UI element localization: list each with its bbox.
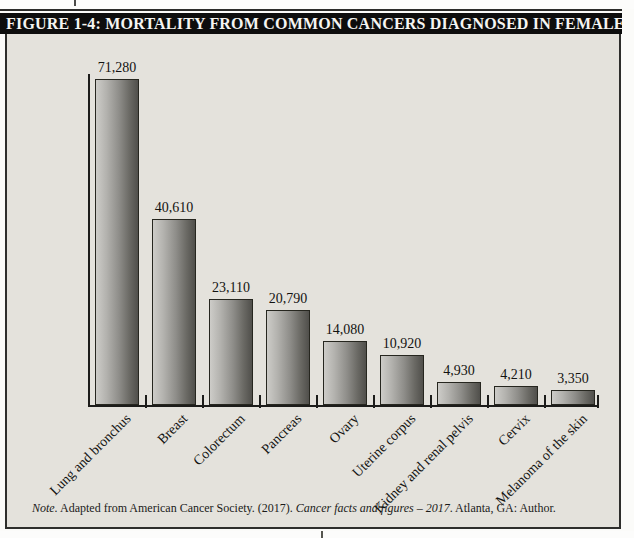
bar-category-label: Pancreas <box>259 411 306 458</box>
bar <box>95 79 139 405</box>
axis-tick <box>597 395 599 408</box>
bar <box>380 355 424 405</box>
bar <box>152 219 196 405</box>
bar-category-label: Lung and bronchus <box>47 411 135 499</box>
axis-tick <box>202 395 204 408</box>
figure-title: FIGURE 1-4: MORTALITY FROM COMMON CANCER… <box>6 15 634 33</box>
bar <box>494 386 538 405</box>
axis-tick <box>316 395 318 408</box>
bar-value-label: 4,930 <box>443 363 475 379</box>
bar-category-label: Ovary <box>326 411 362 447</box>
axis-tick <box>544 395 546 408</box>
axis-tick <box>430 395 432 408</box>
note-text-2: . Atlanta, GA: Author. <box>450 501 556 515</box>
note-text-1: Adapted from American Cancer Society. (2… <box>58 501 296 515</box>
bar <box>266 310 310 405</box>
bar-value-label: 14,080 <box>326 322 365 338</box>
axis-tick <box>259 395 261 408</box>
bar <box>323 341 367 405</box>
bar-category-label: Breast <box>155 411 192 448</box>
scanned-page: FIGURE 1-4: MORTALITY FROM COMMON CANCER… <box>0 0 634 538</box>
bar-category-label: Cervix <box>495 411 533 449</box>
axis-tick <box>373 395 375 408</box>
bar <box>551 390 595 405</box>
bar-value-label: 71,280 <box>98 60 137 76</box>
note-cited-title: Cancer facts and figures – 2017 <box>296 501 450 515</box>
scan-artifact-vline-top <box>74 0 76 6</box>
bar-value-label: 23,110 <box>212 280 250 296</box>
horizontal-rule-top <box>0 9 634 11</box>
bar-value-label: 40,610 <box>155 200 194 216</box>
x-axis <box>88 405 599 407</box>
bar-value-label: 3,350 <box>557 371 589 387</box>
bar-category-label: Colorectum <box>190 411 248 469</box>
source-note: Note. Adapted from American Cancer Socie… <box>32 501 556 516</box>
page-margin-right <box>622 9 634 538</box>
figure-title-bar: FIGURE 1-4: MORTALITY FROM COMMON CANCER… <box>0 13 622 34</box>
bar-chart: 71,280Lung and bronchus40,610Breast23,11… <box>7 34 619 527</box>
bar <box>437 382 481 405</box>
axis-tick <box>487 395 489 408</box>
bar <box>209 299 253 405</box>
scan-artifact-bottom <box>0 531 634 538</box>
figure-box: 71,280Lung and bronchus40,610Breast23,11… <box>5 34 621 529</box>
axis-tick <box>145 395 147 408</box>
bar-value-label: 10,920 <box>383 336 422 352</box>
scan-artifact-top <box>0 0 634 9</box>
scan-artifact-vline-bottom <box>321 531 323 538</box>
y-axis <box>88 74 90 407</box>
bar-value-label: 20,790 <box>269 291 308 307</box>
bar-value-label: 4,210 <box>500 367 532 383</box>
note-label: Note. <box>32 501 58 515</box>
